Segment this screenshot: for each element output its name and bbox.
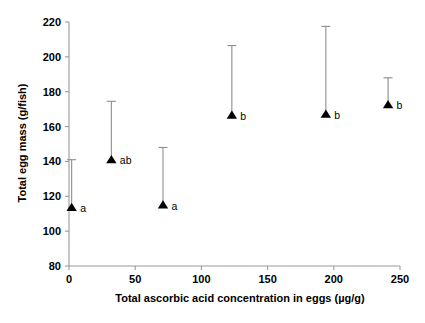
y-tick-label: 100	[43, 225, 61, 237]
x-tick-label: 50	[129, 273, 141, 285]
x-tick-label: 200	[325, 273, 343, 285]
x-tick-label: 250	[391, 273, 409, 285]
chart-container: 80100120140160180200220 050100150200250 …	[0, 0, 425, 323]
significance-label: ab	[120, 154, 132, 166]
plot-background	[0, 0, 425, 323]
y-tick-label: 160	[43, 121, 61, 133]
y-tick-label: 220	[43, 16, 61, 28]
significance-label: a	[172, 200, 178, 212]
scatter-plot: 80100120140160180200220 050100150200250 …	[0, 0, 425, 323]
x-tick-label: 150	[258, 273, 276, 285]
significance-label: b	[240, 110, 246, 122]
x-tick-label: 0	[66, 273, 72, 285]
y-tick-label: 180	[43, 86, 61, 98]
y-tick-label: 200	[43, 51, 61, 63]
x-tick-label: 100	[192, 273, 210, 285]
significance-label: b	[334, 109, 340, 121]
significance-label: a	[80, 202, 86, 214]
x-axis-title: Total ascorbic acid concentration in egg…	[115, 292, 365, 304]
y-axis-title: Total egg mass (g/fish)	[16, 83, 28, 202]
y-tick-label: 120	[43, 190, 61, 202]
significance-label: b	[397, 99, 403, 111]
y-tick-label: 140	[43, 155, 61, 167]
y-tick-label: 80	[49, 260, 61, 272]
